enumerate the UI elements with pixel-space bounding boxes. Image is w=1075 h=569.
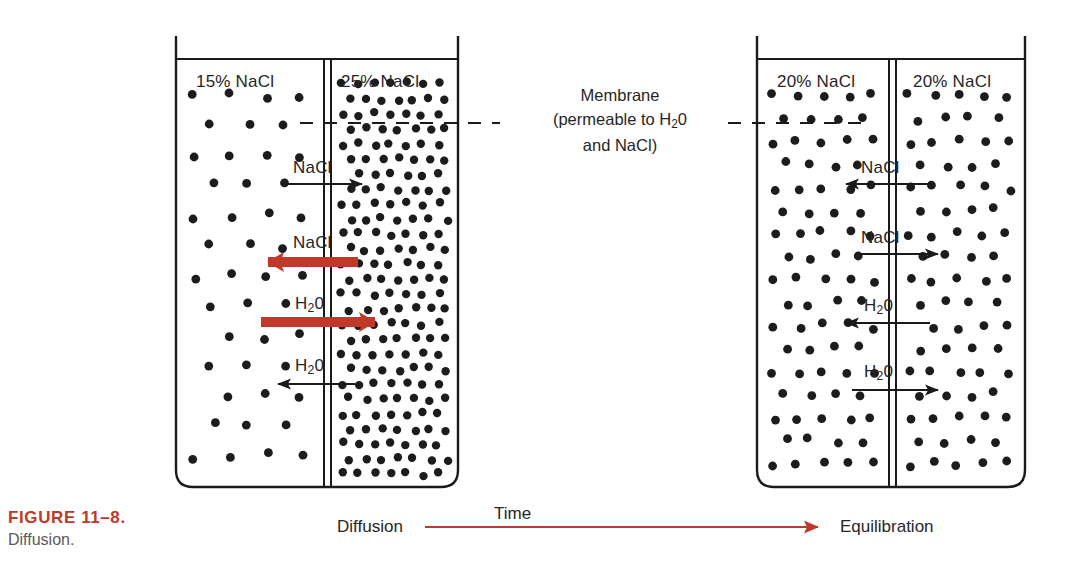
membrane-note-line1: Membrane bbox=[581, 86, 660, 104]
right-beaker-solute-dots-right bbox=[903, 89, 1016, 471]
left-beaker-right-concentration-label: 25% NaCl bbox=[341, 72, 419, 92]
membrane-note-line3: and NaCl) bbox=[583, 136, 657, 154]
figure-caption: Diffusion. bbox=[8, 531, 74, 549]
right-flow-label-nacl-1: NaCl bbox=[861, 158, 900, 178]
right-flow-label-h2o-1: H20 bbox=[864, 296, 893, 316]
left-flow-label-h2o-1: H20 bbox=[295, 294, 324, 314]
left-flow-label-h2o-2: H20 bbox=[295, 356, 324, 376]
right-beaker-left-concentration-label: 20% NaCl bbox=[777, 72, 855, 92]
membrane-note-line2: (permeable to H20 bbox=[553, 110, 687, 128]
right-flow-label-h2o-2: H20 bbox=[864, 362, 893, 382]
figure-number: FIGURE 11–8. bbox=[8, 508, 126, 528]
membrane-note: Membrane (permeable to H20 and NaCl) bbox=[525, 83, 715, 157]
figure-canvas: 15% NaCl 25% NaCl NaCl NaCl H20 H20 20% … bbox=[0, 0, 1075, 569]
right-flow-label-nacl-2: NaCl bbox=[861, 228, 900, 248]
left-beaker-solute-dots-sparse bbox=[188, 89, 308, 464]
right-beaker-right-concentration-label: 20% NaCl bbox=[913, 72, 991, 92]
left-beaker-solute-dots-dense bbox=[336, 78, 452, 481]
left-beaker-left-concentration-label: 15% NaCl bbox=[196, 72, 274, 92]
timeline-end-label: Equilibration bbox=[840, 517, 934, 537]
timeline-axis-label: Time bbox=[494, 504, 531, 524]
timeline-start-label: Diffusion bbox=[337, 517, 403, 537]
left-flow-label-nacl-1: NaCl bbox=[293, 158, 332, 178]
left-flow-label-nacl-2: NaCl bbox=[293, 233, 332, 253]
right-beaker-solute-dots-left bbox=[767, 89, 879, 471]
right-beaker bbox=[728, 36, 1025, 487]
